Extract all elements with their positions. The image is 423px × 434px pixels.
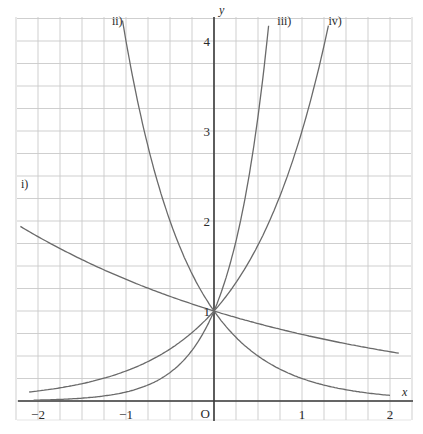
curves <box>20 21 398 401</box>
origin-label: O <box>201 406 210 421</box>
x-axis-label: x <box>401 385 408 399</box>
curve-2 <box>123 21 391 396</box>
y-tick-label: 3 <box>204 124 211 139</box>
x-tick-label: −2 <box>31 407 45 422</box>
curve-label-4: iv) <box>328 14 341 28</box>
curve-1 <box>20 226 398 353</box>
x-tick-label: 2 <box>387 407 394 422</box>
y-tick-labels: 1234 <box>204 34 211 319</box>
y-tick-label: 1 <box>204 304 211 319</box>
x-tick-label: −1 <box>119 407 133 422</box>
curve-labels: i)ii)iii)iv) <box>21 14 342 191</box>
curve-label-3: iii) <box>277 14 291 28</box>
curve-label-1: i) <box>21 177 28 191</box>
curve-4 <box>29 26 328 392</box>
y-tick-label: 4 <box>204 34 211 49</box>
y-tick-label: 2 <box>204 214 211 229</box>
curve-3 <box>34 26 269 400</box>
y-axis-label: y <box>218 3 225 17</box>
curve-label-2: ii) <box>112 14 123 28</box>
exponential-graphs-chart: −2−112 1234 i)ii)iii)iv) x y O <box>0 0 423 434</box>
x-tick-label: 1 <box>299 407 306 422</box>
